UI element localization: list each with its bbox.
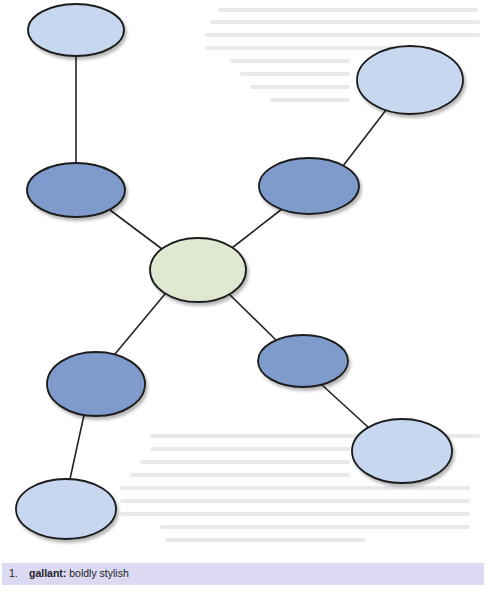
connector-mid-upper-right-to-outer-top-right [343, 110, 386, 166]
connector-center-to-mid-lower-right [229, 294, 276, 340]
node-mid-upper-right [259, 158, 359, 214]
web-organizer-diagram [0, 0, 488, 560]
node-mid-lower-right [258, 335, 348, 387]
node-outer-bottom-right [352, 419, 452, 483]
definition-term: gallant: [29, 567, 66, 579]
definition-meaning: boldly stylish [69, 567, 129, 579]
connector-center-to-mid-upper-right [232, 209, 282, 248]
vocabulary-definition: 1.gallant: boldly stylish [9, 567, 129, 579]
diagram-nodes [16, 4, 463, 539]
node-mid-lower-left [47, 352, 145, 416]
node-outer-top-right [357, 46, 463, 114]
node-center [150, 238, 246, 302]
node-mid-upper-left [27, 163, 125, 217]
connector-center-to-mid-upper-left [110, 210, 162, 249]
node-outer-top-left [28, 4, 124, 56]
connector-mid-lower-right-to-outer-bottom-right [322, 385, 368, 427]
connector-mid-lower-left-to-outer-bottom-left [70, 415, 84, 479]
node-outer-bottom-left [16, 479, 116, 539]
definition-number: 1. [9, 567, 29, 579]
connector-center-to-mid-lower-left [115, 294, 165, 354]
